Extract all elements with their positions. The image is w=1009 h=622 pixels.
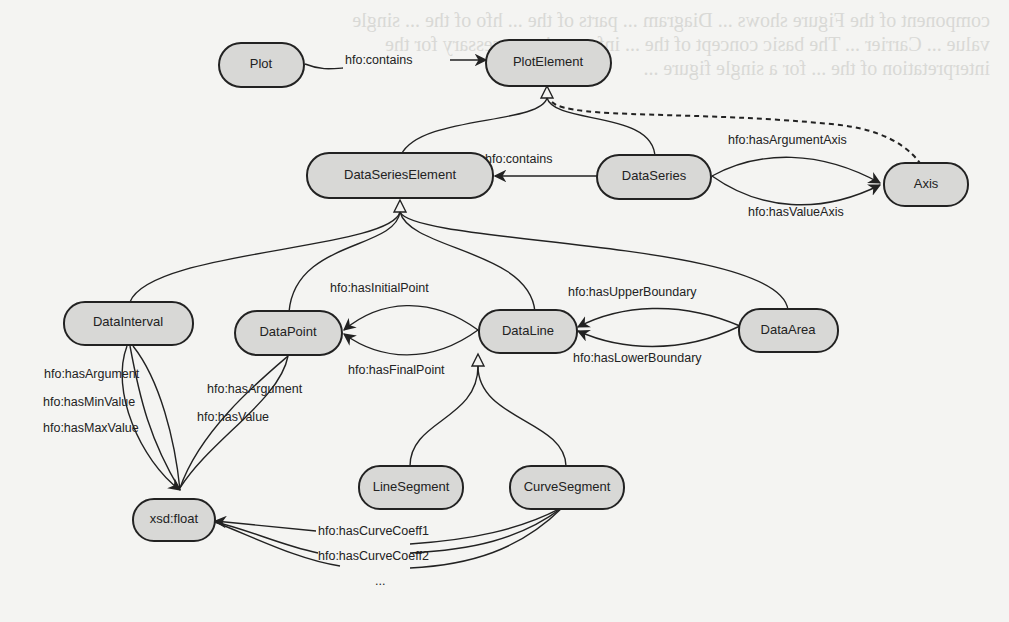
svg-text:Plot: Plot bbox=[250, 56, 273, 71]
edge-label-interval-has-min-value: hfo:hasMinValue bbox=[43, 395, 135, 409]
edge-label-has-argument-axis: hfo:hasArgumentAxis bbox=[728, 133, 847, 147]
edge-plot-contains: hfo:contains bbox=[305, 53, 486, 69]
edge-label-point-has-value: hfo:hasValue bbox=[197, 410, 269, 424]
edge-series-axis: hfo:hasArgumentAxis hfo:hasValueAxis bbox=[712, 133, 880, 219]
edge-label-interval-has-argument: hfo:hasArgument bbox=[44, 367, 140, 381]
edge-line-point: hfo:hasInitialPoint hfo:hasFinalPoint bbox=[330, 281, 478, 377]
edge-series-contains: hfo:contains bbox=[485, 152, 598, 176]
svg-text:Axis: Axis bbox=[914, 176, 939, 191]
node-line-segment[interactable]: LineSegment bbox=[359, 466, 463, 509]
edge-label-point-has-argument: hfo:hasArgument bbox=[207, 382, 303, 396]
svg-text:DataSeries: DataSeries bbox=[622, 168, 687, 183]
edge-label-ellipsis: ... bbox=[375, 574, 385, 588]
node-xsd-float[interactable]: xsd:float bbox=[133, 499, 215, 541]
node-curve-segment[interactable]: CurveSegment bbox=[510, 466, 624, 509]
svg-text:DataPoint: DataPoint bbox=[259, 324, 316, 339]
svg-text:DataArea: DataArea bbox=[761, 322, 817, 337]
node-data-series[interactable]: DataSeries bbox=[597, 155, 711, 199]
inheritance-triangle-icon bbox=[394, 200, 406, 212]
node-data-point[interactable]: DataPoint bbox=[235, 311, 342, 355]
edge-label-has-curve-coeff1: hfo:hasCurveCoeff1 bbox=[318, 524, 429, 538]
svg-text:xsd:float: xsd:float bbox=[150, 511, 199, 526]
svg-text:DataLine: DataLine bbox=[502, 323, 554, 338]
svg-text:CurveSegment: CurveSegment bbox=[524, 479, 611, 494]
edge-curve-float: hfo:hasCurveCoeff1 hfo:hasCurveCoeff2 ..… bbox=[215, 507, 563, 588]
inheritance-triangle-icon bbox=[541, 86, 553, 98]
edge-area-line: hfo:hasUpperBoundary hfo:hasLowerBoundar… bbox=[568, 285, 740, 365]
edge-label-interval-has-max-value: hfo:hasMaxValue bbox=[43, 421, 139, 435]
edge-label-has-final-point: hfo:hasFinalPoint bbox=[348, 363, 445, 377]
edge-label-series-contains: hfo:contains bbox=[485, 152, 552, 166]
node-plot-element[interactable]: PlotElement bbox=[486, 40, 611, 86]
edge-label-has-value-axis: hfo:hasValueAxis bbox=[748, 205, 844, 219]
node-data-area[interactable]: DataArea bbox=[739, 309, 838, 352]
svg-text:PlotElement: PlotElement bbox=[513, 54, 583, 69]
node-data-interval[interactable]: DataInterval bbox=[64, 302, 193, 345]
svg-text:LineSegment: LineSegment bbox=[373, 479, 450, 494]
edge-label-has-lower-boundary: hfo:hasLowerBoundary bbox=[573, 351, 702, 365]
node-data-series-element[interactable]: DataSeriesElement bbox=[307, 153, 493, 198]
edge-point-float: hfo:hasArgument hfo:hasValue bbox=[180, 356, 303, 488]
svg-text:DataSeriesElement: DataSeriesElement bbox=[344, 167, 456, 182]
edge-label-plot-contains: hfo:contains bbox=[345, 53, 412, 67]
ontology-diagram: hfo:contains hfo:contains hfo:hasArgumen… bbox=[0, 0, 1009, 622]
edge-label-has-upper-boundary: hfo:hasUpperBoundary bbox=[568, 285, 697, 299]
svg-text:DataInterval: DataInterval bbox=[93, 314, 163, 329]
edge-label-has-curve-coeff2: hfo:hasCurveCoeff2 bbox=[318, 549, 429, 563]
edge-interval-float: hfo:hasArgument hfo:hasMinValue hfo:hasM… bbox=[43, 346, 180, 490]
node-data-line[interactable]: DataLine bbox=[479, 310, 577, 353]
edge-label-has-initial-point: hfo:hasInitialPoint bbox=[330, 281, 429, 295]
inheritance-triangle-icon bbox=[472, 354, 484, 366]
node-axis[interactable]: Axis bbox=[884, 163, 968, 206]
node-plot[interactable]: Plot bbox=[219, 43, 304, 87]
